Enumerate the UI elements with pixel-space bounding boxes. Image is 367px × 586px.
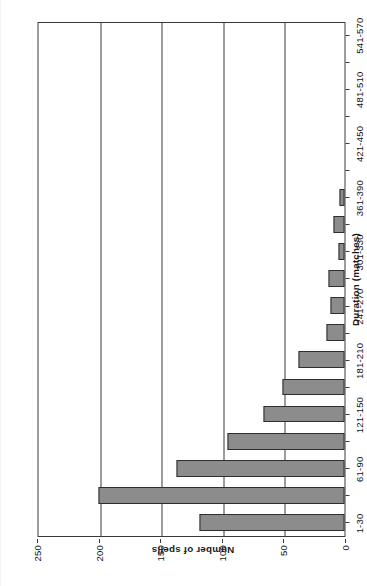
plot-area [37,22,345,537]
category-tick-mark [345,387,349,388]
bar-slot [38,189,344,206]
value-tick-label: 250 [32,545,43,561]
bar[interactable] [338,243,344,260]
bar-slot [38,216,344,233]
bar-slot [38,460,344,477]
category-tick-mark [345,414,349,415]
category-tick-mark [345,495,349,496]
bar[interactable] [282,379,344,396]
bar-slot [38,487,344,504]
bar-slot [38,351,344,368]
bar-slot [38,433,344,450]
category-tick-mark [345,89,349,90]
bar[interactable] [339,189,344,206]
value-tick-mark [37,539,38,543]
chart-screenshot: 050100150200250 Number of spells 1-3061-… [0,0,367,586]
value-axis: 050100150200250 Number of spells [37,539,345,586]
category-tick-mark [345,116,349,117]
category-tick-mark [345,143,349,144]
bar-slot [38,80,344,97]
bar-chart-figure: 050100150200250 Number of spells 1-3061-… [0,0,367,586]
category-tick-mark [345,224,349,225]
category-tick-mark [345,62,349,63]
bar[interactable] [328,270,344,287]
bar[interactable] [298,351,344,368]
value-tick-mark [345,539,346,543]
bar-slot [38,107,344,124]
category-tick-mark [345,170,349,171]
bar-slot [38,514,344,531]
bar[interactable] [330,297,344,314]
category-tick-mark [345,360,349,361]
bar-slot [38,162,344,179]
category-tick-mark [345,251,349,252]
value-tick-mark [283,539,284,543]
bar-series [38,23,344,536]
value-tick-mark [221,539,222,543]
value-tick-mark [98,539,99,543]
bar-slot [38,53,344,70]
bar[interactable] [333,216,344,233]
bar[interactable] [199,514,344,531]
bar[interactable] [227,433,344,450]
category-axis-title: Duration (matches) [349,22,360,537]
bar[interactable] [176,460,344,477]
value-tick-mark [160,539,161,543]
bar-slot [38,26,344,43]
category-tick-mark [345,279,349,280]
bar[interactable] [98,487,344,504]
bar[interactable] [263,406,344,423]
bar-slot [38,270,344,287]
category-tick-mark [345,197,349,198]
category-tick-mark [345,35,349,36]
figure-rotator: 050100150200250 Number of spells 1-3061-… [0,0,367,586]
bar[interactable] [326,324,344,341]
value-axis-title: Number of spells [63,545,323,556]
category-tick-mark [345,306,349,307]
bar-slot [38,135,344,152]
bar-slot [38,406,344,423]
bar-slot [38,297,344,314]
category-tick-mark [345,468,349,469]
bar-slot [38,324,344,341]
category-tick-mark [345,333,349,334]
bar-slot [38,243,344,260]
category-tick-mark [345,522,349,523]
category-tick-mark [345,441,349,442]
value-tick-label: 0 [340,545,351,550]
bar-slot [38,379,344,396]
